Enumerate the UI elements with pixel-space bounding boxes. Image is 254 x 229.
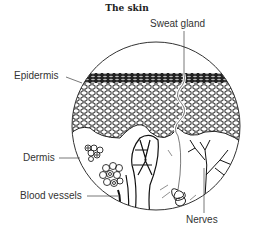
blood-vessel-cluster-lower (100, 163, 124, 187)
sweat-gland-coil (172, 189, 186, 206)
stratum-corneum (70, 73, 245, 83)
connective-tissue-hatching (78, 150, 232, 200)
skin-cross-section-illustration (0, 0, 254, 229)
nerve-branches (188, 140, 232, 215)
follicle-structure (118, 135, 158, 215)
blood-vessel-cluster-upper (85, 145, 103, 162)
